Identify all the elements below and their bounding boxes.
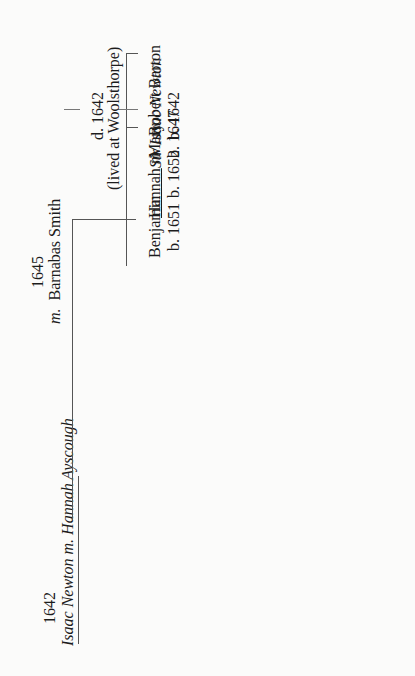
hannah-birth: b. 1652 bbox=[166, 150, 182, 198]
marriage-mark: m. bbox=[146, 149, 163, 165]
isaac-sr-name: Isaac Newton bbox=[59, 558, 76, 646]
barnabas-children-stem bbox=[72, 219, 126, 220]
bar-left-end bbox=[126, 265, 127, 266]
hannah-to-barnabas-line bbox=[72, 220, 73, 520]
hannah-name: Hannah bbox=[146, 168, 163, 218]
marriage-year-1645: 1645 bbox=[30, 256, 46, 288]
barnabas-smith-label: m. Barnabas Smith bbox=[47, 199, 63, 324]
hannah-ayscough-name: Hannah Ayscough bbox=[59, 418, 76, 535]
mary-tick bbox=[126, 127, 138, 128]
barnabas-smith-name: Barnabas Smith bbox=[46, 199, 63, 301]
isaac-sr-note: (lived at Woolsthorpe) bbox=[106, 47, 122, 190]
benjamin-birth: b. 1651 bbox=[166, 203, 182, 251]
family-tree-diagram: 1642 Isaac Newton m. Hannah Ayscough 164… bbox=[0, 0, 415, 676]
isaac-sr-drop-1 bbox=[64, 109, 80, 110]
hannah-tick bbox=[126, 53, 138, 54]
hannah-label: Hannah m. bbox=[147, 149, 163, 218]
smith-children-bar bbox=[126, 54, 127, 266]
marriage-mark: m. bbox=[59, 539, 76, 555]
robert-barton-name: Robert Barton bbox=[147, 45, 163, 136]
isaac-sr-death: d. 1642 bbox=[90, 92, 106, 140]
marriage-year-1642: 1642 bbox=[42, 592, 58, 624]
marriage-mark: m. bbox=[46, 308, 63, 324]
isaac-sr-underline bbox=[78, 476, 79, 644]
benjamin-tick bbox=[126, 219, 136, 220]
isaac-newton-sr-name: Isaac Newton m. Hannah Ayscough bbox=[60, 418, 76, 646]
